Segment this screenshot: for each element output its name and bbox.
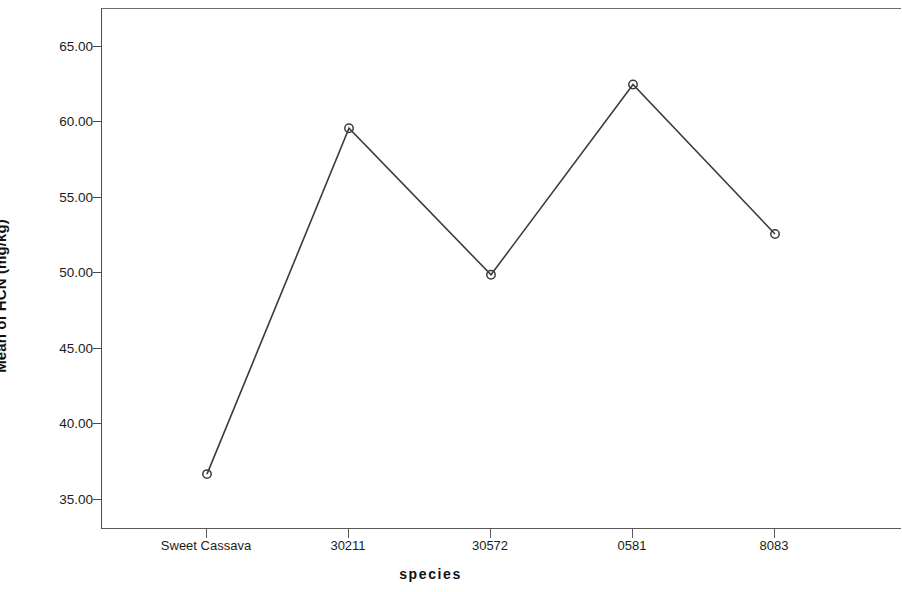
x-axis-tick-mark bbox=[632, 529, 633, 538]
x-axis-tick-label: Sweet Cassava bbox=[126, 538, 286, 553]
x-axis-tick-label: 8083 bbox=[694, 538, 854, 553]
x-axis-tick-label: 30211 bbox=[268, 538, 428, 553]
x-axis-title: species bbox=[101, 566, 880, 582]
x-axis-tick-label: 30572 bbox=[410, 538, 570, 553]
x-axis-tick-label: 0581 bbox=[552, 538, 712, 553]
x-axis-tick-mark bbox=[206, 529, 207, 538]
x-axis-tick-mark bbox=[774, 529, 775, 538]
x-axis-tick-mark bbox=[490, 529, 491, 538]
x-axis-tick-mark bbox=[348, 529, 349, 538]
